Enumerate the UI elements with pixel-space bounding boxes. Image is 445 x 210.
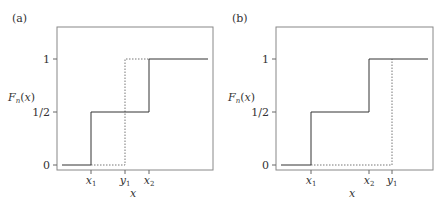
y-axis-label: Fn(x) (7, 91, 35, 105)
panel-a: (a) 0 1/2 1 Fn(x) x1 y1 x2 x (7, 12, 213, 200)
y-ticks (53, 59, 57, 165)
x-ticks (311, 170, 392, 174)
ytick-label: 1/2 (251, 106, 269, 119)
axes-frame (57, 27, 213, 170)
xtick-label-y1: y1 (386, 174, 398, 188)
xtick-label-x2: x2 (364, 174, 375, 188)
y-axis-label: Fn(x) (227, 91, 255, 105)
ytick-label: 1/2 (32, 106, 50, 119)
series-solid-ecdf (281, 59, 428, 165)
xtick-label-x2: x2 (144, 174, 155, 188)
figure: (a) 0 1/2 1 Fn(x) x1 y1 x2 x (b) (0, 0, 445, 210)
xtick-label-y1: y1 (119, 174, 131, 188)
panel-label-a: (a) (12, 12, 27, 25)
ytick-label: 1 (262, 53, 269, 66)
panel-label-b: (b) (232, 12, 248, 25)
x-axis-label: x (130, 187, 137, 200)
ytick-label: 0 (43, 159, 50, 172)
panel-b: (b) 0 1/2 1 Fn(x) x1 x2 y1 x (227, 12, 433, 200)
xtick-label-x1: x1 (86, 174, 97, 188)
series-solid-ecdf (62, 59, 208, 165)
xtick-label-x1: x1 (306, 174, 317, 188)
ytick-label: 0 (262, 159, 269, 172)
y-ticks (272, 59, 276, 165)
axes-frame (276, 27, 433, 170)
x-axis-label: x (349, 187, 356, 200)
ytick-label: 1 (43, 53, 50, 66)
